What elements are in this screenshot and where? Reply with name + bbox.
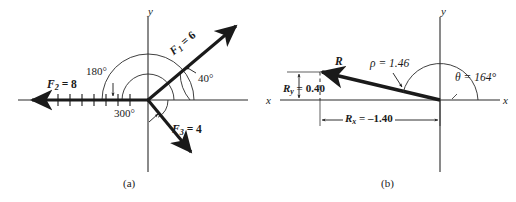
resultant-point-label: R [335, 56, 343, 68]
ry-dimension-label: Ry = 0.40 [283, 83, 325, 96]
panel-a-caption: (a) [123, 178, 135, 189]
vector-f3-symbol: F [172, 123, 180, 135]
vector-f3-value: = 4 [184, 123, 202, 135]
angle-label-40: 40° [198, 73, 213, 84]
vector-resultant [322, 72, 440, 100]
rho-label: ρ = 1.46 [370, 58, 409, 70]
panel-b-x-axis-label-left: x [266, 95, 271, 106]
vector-f2-label: F2 = 8 [47, 79, 77, 92]
panel-a-axes [18, 17, 248, 172]
vector-f3-label: F3 = 4 [172, 124, 202, 137]
vector-f2 [32, 94, 148, 106]
panel-b-x-axis-label-right: x [503, 95, 508, 106]
ry-value: = 0.40 [294, 82, 325, 94]
angle-label-180: 180° [86, 66, 107, 77]
angle-label-300: 300° [114, 108, 135, 119]
panel-a-y-axis-label: y [148, 6, 153, 17]
rx-dimension-label: Rx = –1.40 [343, 113, 395, 126]
figure-svg [0, 0, 516, 202]
vector-f2-symbol: F [47, 78, 55, 90]
figure-container: y F1 = 6 F2 = 8 F3 = 4 180° 40° 300° (a)… [0, 0, 516, 202]
panel-b-caption: (b) [381, 178, 394, 189]
theta-label: θ = 164° [455, 72, 496, 84]
panel-b-y-axis-label: y [441, 6, 446, 17]
rx-value: = –1.40 [356, 112, 393, 124]
vector-f2-value: = 8 [59, 78, 77, 90]
